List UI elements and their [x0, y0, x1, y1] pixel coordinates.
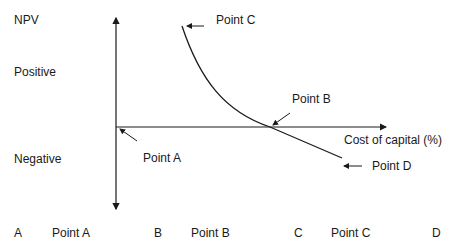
- npv-diagram-canvas: [0, 0, 457, 240]
- option-c-letter[interactable]: C: [294, 226, 303, 240]
- arrow-point-a: [120, 129, 137, 141]
- point-b-label: Point B: [292, 92, 331, 106]
- option-a-text[interactable]: Point A: [52, 226, 90, 240]
- arrow-point-b: [273, 113, 290, 125]
- option-d-letter[interactable]: D: [432, 226, 441, 240]
- option-a-letter[interactable]: A: [14, 226, 22, 240]
- option-b-text[interactable]: Point B: [191, 226, 230, 240]
- positive-region-label: Positive: [14, 65, 56, 79]
- point-d-label: Point D: [372, 159, 411, 173]
- y-axis-label: NPV: [14, 13, 39, 27]
- x-axis-label: Cost of capital (%): [344, 133, 442, 147]
- option-b-letter[interactable]: B: [154, 226, 162, 240]
- point-a-label: Point A: [143, 151, 181, 165]
- option-c-text[interactable]: Point C: [331, 226, 370, 240]
- point-c-label: Point C: [216, 13, 255, 27]
- negative-region-label: Negative: [14, 152, 61, 166]
